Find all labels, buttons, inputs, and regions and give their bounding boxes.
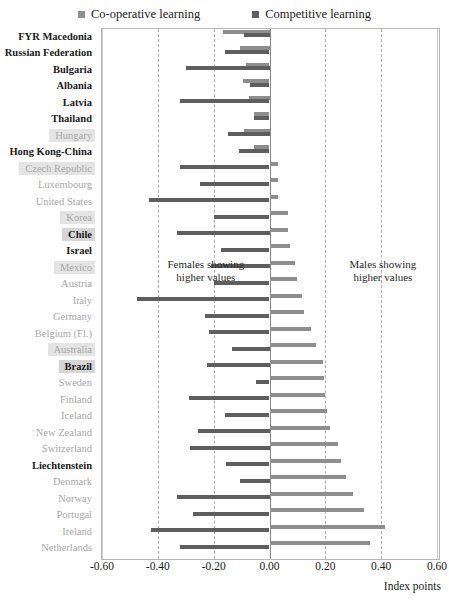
chart-legend: Co-operative learning Competitive learni… [0,4,449,24]
bar-comp [221,248,270,252]
legend-label-cooperative: Co-operative learning [91,8,200,21]
bar-coop [270,376,324,380]
bar-row [102,376,439,393]
bar-row [102,79,439,96]
category-label: Denmark [47,475,95,488]
bar-coop [270,327,312,331]
bar-comp [177,495,269,499]
axis-tick: 0.20 [315,560,335,572]
value-axis: -0.60-0.40-0.200.000.200.400.60 [101,560,438,576]
bar-comp [256,380,270,384]
bar-row [102,29,439,46]
category-label: Thailand [45,112,95,125]
axis-tick: -0.40 [146,560,170,572]
bar-row [102,343,439,360]
bar-comp [254,116,269,120]
category-label: Hungary [49,129,95,142]
category-axis-labels: FYR MacedoniaRussian FederationBulgariaA… [0,28,99,558]
category-label: Switzerland [36,442,95,455]
axis-tick: -0.60 [90,560,114,572]
bar-comp [228,132,270,136]
bar-coop [270,360,323,364]
category-label: Austria [55,277,95,290]
bar-coop [270,228,288,232]
bar-row [102,541,439,558]
bar-coop [270,475,347,479]
category-label: Brazil [59,360,95,373]
category-label: Czech Republic [19,162,95,175]
bar-rows [102,29,439,559]
bar-row [102,95,439,112]
bar-comp [177,231,269,235]
bar-row [102,326,439,343]
annotation-males-line2: higher values [331,271,435,284]
bar-comp [151,528,270,532]
bar-coop [270,426,330,430]
axis-title: Index points [384,580,441,592]
bar-coop [270,393,326,397]
bar-comp [239,149,270,153]
bar-coop [270,459,341,463]
category-label: Korea [60,211,95,224]
bar-row [102,194,439,211]
legend-swatch-cooperative [78,11,85,18]
plot-area: Females showing higher values Males show… [101,28,440,560]
category-label: Bulgaria [47,63,95,76]
bar-coop [270,277,298,281]
bar-comp [189,396,270,400]
category-label: Hong Kong-China [3,145,95,158]
annotation-males: Males showing higher values [331,258,435,284]
legend-item-competitive: Competitive learning [252,8,371,21]
category-label: United States [30,195,95,208]
bar-comp [137,297,270,301]
category-label: Norway [52,492,95,505]
bar-row [102,62,439,79]
category-label: Mexico [54,261,95,274]
bar-row [102,409,439,426]
bar-row [102,227,439,244]
axis-tick: 0.60 [427,560,447,572]
bar-coop [270,310,305,314]
bar-coop [270,508,365,512]
axis-tick: -0.20 [202,560,226,572]
bar-coop [270,525,386,529]
bar-coop [270,261,295,265]
chart-page: Co-operative learning Competitive learni… [0,0,449,600]
bar-comp [190,446,270,450]
bar-coop [270,409,327,413]
bar-comp [205,314,269,318]
bar-coop [270,162,278,166]
bar-row [102,425,439,442]
category-label: Albania [50,79,95,92]
legend-label-competitive: Competitive learning [265,8,371,21]
bar-row [102,128,439,145]
bar-comp [198,429,269,433]
annotation-females-line1: Females showing [150,258,262,271]
annotation-males-line1: Males showing [331,258,435,271]
bar-coop [270,442,338,446]
category-label: Portugal [50,508,95,521]
category-label: Israel [60,244,95,257]
annotation-females: Females showing higher values [150,258,262,284]
bar-row [102,46,439,63]
bar-comp [225,413,270,417]
category-label: Liechtenstein [26,459,95,472]
axis-tick: 0.00 [259,560,279,572]
bar-comp [240,479,269,483]
category-label: FYR Macedonia [12,30,95,43]
bar-comp [180,545,269,549]
bar-comp [250,83,270,87]
bar-row [102,293,439,310]
category-label: Ireland [56,525,95,538]
category-label: Russian Federation [0,46,95,59]
category-label: Germany [47,310,95,323]
bar-row [102,508,439,525]
category-label: Luxembourg [32,178,95,191]
category-label: Italy [67,294,95,307]
bar-row [102,458,439,475]
category-label: Sweden [53,376,95,389]
bar-comp [226,462,269,466]
category-label: Finland [54,393,95,406]
bar-coop [270,195,278,199]
category-label: New Zealand [30,426,95,439]
